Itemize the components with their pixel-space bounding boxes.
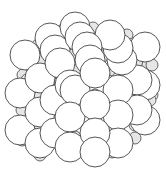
- crystal-lattice-diagram: [0, 0, 166, 171]
- large-ion-sphere: [80, 137, 110, 167]
- large-ion-sphere: [80, 90, 110, 120]
- large-ion-sphere: [80, 58, 110, 88]
